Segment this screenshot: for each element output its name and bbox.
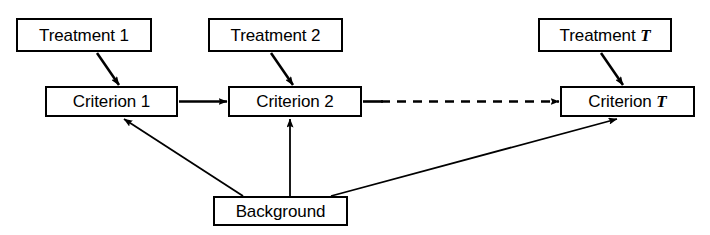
node-criterion-t[interactable]: Criterion T: [560, 86, 695, 117]
edge-treatment-2-to-criterion-2: [271, 53, 293, 85]
node-treatment-1-label: Treatment 1: [39, 27, 129, 44]
edge-treatment-t-to-criterion-t: [601, 53, 623, 85]
node-treatment-1[interactable]: Treatment 1: [16, 18, 152, 52]
node-treatment-t-label: Treatment T: [560, 27, 651, 44]
edge-treatment-1-to-criterion-1: [97, 53, 119, 85]
node-criterion-t-label-symbol: T: [656, 92, 666, 111]
diagram-canvas: Treatment 1 Treatment 2 Treatment T Crit…: [0, 0, 710, 235]
node-criterion-t-label-prefix: Criterion: [588, 92, 656, 111]
node-treatment-2-label: Treatment 2: [231, 27, 321, 44]
node-criterion-2[interactable]: Criterion 2: [228, 86, 362, 117]
node-background[interactable]: Background: [213, 196, 348, 226]
node-criterion-1-label: Criterion 1: [73, 93, 150, 110]
node-treatment-2[interactable]: Treatment 2: [208, 18, 343, 52]
node-background-label: Background: [236, 203, 326, 220]
node-treatment-t-label-prefix: Treatment: [560, 26, 641, 45]
node-criterion-1[interactable]: Criterion 1: [45, 86, 178, 117]
node-treatment-t-label-symbol: T: [640, 26, 650, 45]
node-treatment-t[interactable]: Treatment T: [538, 18, 672, 52]
node-criterion-t-label: Criterion T: [588, 93, 666, 110]
node-criterion-2-label: Criterion 2: [256, 93, 333, 110]
edge-background-to-criterion-t: [331, 119, 617, 196]
edge-background-to-criterion-1: [124, 119, 243, 196]
